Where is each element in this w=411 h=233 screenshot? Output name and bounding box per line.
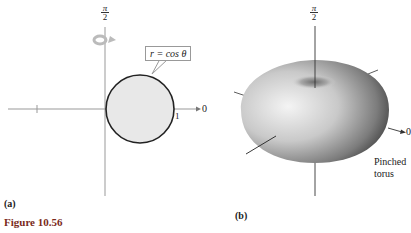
figure-caption: Figure 10.56 — [4, 216, 62, 228]
axis-label-zero-b: 0 — [406, 126, 411, 137]
polar-axis-b — [388, 128, 402, 132]
pinched-torus-label: Pinched torus — [374, 156, 406, 180]
panel-label-b: (b) — [235, 210, 247, 221]
torus-pinch-dimple — [292, 75, 336, 89]
axis-stub-right — [368, 70, 378, 74]
axis-label-pi-over-2-b: π 2 — [309, 4, 319, 21]
